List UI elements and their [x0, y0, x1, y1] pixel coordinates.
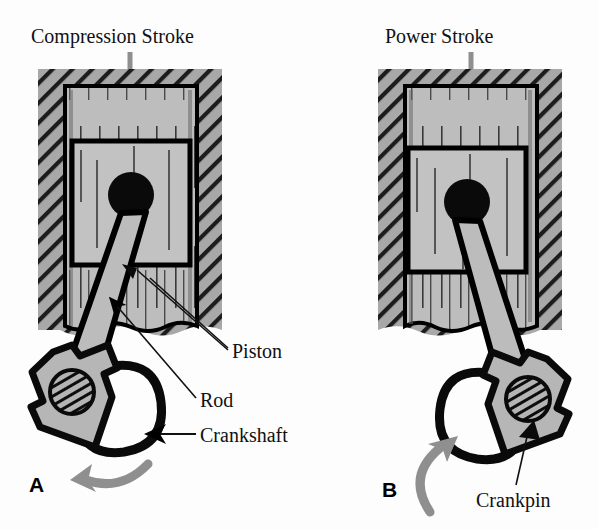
panel-a-title: Compression Stroke [31, 25, 194, 48]
panel-b-title: Power Stroke [385, 25, 493, 47]
figure-canvas: Compression Stroke [0, 0, 599, 529]
panel-a-label: A [29, 473, 44, 496]
callout-rod-label: Rod [200, 389, 233, 411]
callout-crankpin-label: Crankpin [476, 489, 550, 512]
crankpin-b [506, 377, 550, 421]
crankpin-a [50, 370, 94, 414]
engine-stroke-diagram: Compression Stroke [0, 0, 599, 529]
panel-b-label: B [382, 478, 397, 501]
callout-crankshaft-label: Crankshaft [200, 424, 288, 446]
callout-piston-label: Piston [232, 340, 282, 362]
